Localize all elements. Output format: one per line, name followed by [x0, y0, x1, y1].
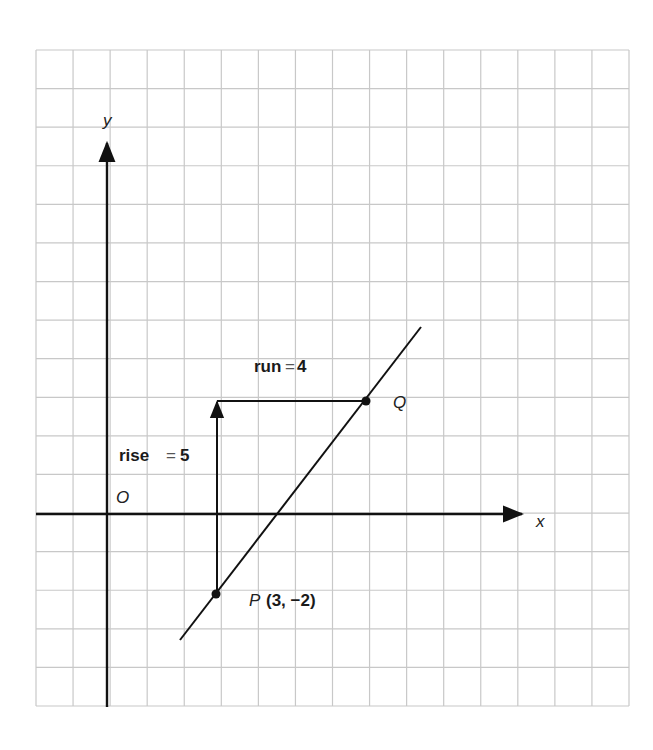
- point-q: [362, 397, 371, 406]
- svg-text:4: 4: [297, 357, 307, 376]
- point-p: [212, 590, 221, 599]
- svg-text:run: run: [254, 357, 281, 376]
- point-p-label: P: [249, 591, 261, 610]
- origin-label: O: [116, 488, 129, 507]
- svg-text:rise: rise: [119, 446, 149, 465]
- point-q-label: Q: [393, 393, 406, 412]
- svg-text:=: =: [285, 357, 295, 376]
- svg-text:=: =: [166, 446, 176, 465]
- svg-text:5: 5: [180, 446, 189, 465]
- point-p-coords: (3, −2): [266, 591, 316, 610]
- grid: [36, 50, 629, 706]
- y-axis-label: y: [102, 111, 113, 130]
- rise-annotation: rise = 5: [119, 446, 189, 465]
- run-annotation: run = 4: [254, 357, 307, 376]
- x-axis-label: x: [535, 512, 545, 531]
- coordinate-plane-figure: x y O Q P (3, −2) run = 4 rise = 5: [0, 0, 653, 750]
